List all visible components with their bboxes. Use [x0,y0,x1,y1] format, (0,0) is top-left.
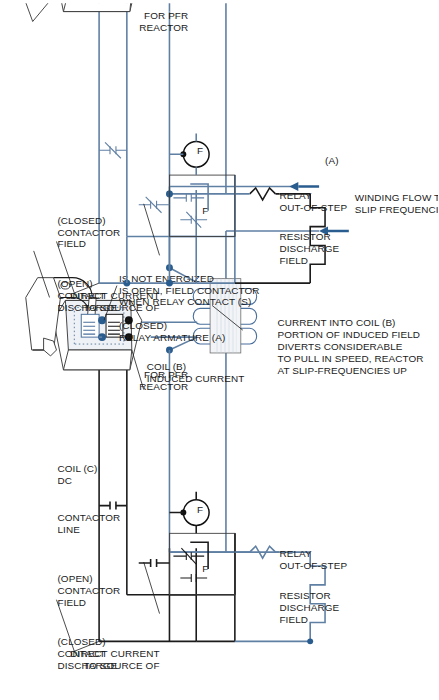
label-line-contactor-A-l1: LINE [57,524,80,535]
upper-contactor-B [99,142,127,158]
label-fdr-A-l3: RESISTOR [279,590,330,601]
panel-A-wiring [99,186,319,641]
field-meter-label-B: F [197,145,203,156]
label-field-contactor-B-l1: FIELD [57,238,86,249]
flow-note-A-l2: WINDING FLOW THRU DISCHARGE CIRCUIT [354,192,437,203]
relay-assembly-B [21,3,141,11]
diagram-page: F [0,0,439,700]
label-oos-B-l2: RELAY [279,190,312,201]
discharge-enclosure-B: F [169,175,234,236]
label-oos-B-l1: OUT-OF-STEP [279,202,347,213]
label-induced-coil-A-l2: COIL (B) [146,361,186,372]
field-contactor-B [138,197,169,213]
note-relay-A-l3: IS NOT ENERGIZED [118,273,213,284]
label-field-contactor-A-l1: FIELD [57,597,86,608]
discharge-contact-B [173,194,204,202]
label-fdr-A-l2: DISCHARGE [279,602,339,613]
discharge-enclosure-A: F [169,533,234,594]
label-discharge-contact-B-l3: (OPEN) [57,278,92,289]
field-meter-B: F [169,133,209,175]
label-armature-A-l2: (CLOSED) [118,320,166,331]
note-slip-A-l5: CURRENT INTO COIL (B) [277,317,395,328]
fuse-label-B: F [202,205,208,216]
label-reactor-B-l2: FOR PFR [144,11,188,22]
label-dc-coil-A-l2: COIL (C) [57,463,97,474]
flow-note-A-l1: SLIP FREQUENCIES INDUCED IN FIELD [354,204,437,215]
label-field-contactor-A-l2: CONTACTOR [57,585,120,596]
rotated-canvas: F [1,3,437,697]
label-field-contactor-B-l3: (CLOSED) [57,215,105,226]
circuit-diagram-svg: F [1,3,437,697]
label-reactor-B-l1: REACTOR [139,22,188,33]
label-discharge-contact-A-l3: (CLOSED) [57,636,105,647]
line-contactor-A [99,502,127,510]
label-armature-A-l1: RELAY ARMATURE (A) [118,332,224,343]
note-slip-A-l4: PORTION OF INDUCED FIELD [277,329,420,340]
label-fdr-B-l3: RESISTOR [279,231,330,242]
label-fdr-B-l1: FIELD [279,255,308,266]
labels-B: TO SOURCE OF DIRECT CURRENT DISCHARGE CO… [57,3,438,313]
label-fdr-A-l1: FIELD [279,614,308,625]
field-contactor-A [138,559,169,567]
note-slip-A-l1: AT SLIP-FREQUENCIES UP [277,365,407,376]
label-oos-A-l1: OUT-OF-STEP [279,560,347,571]
label-induced-coil-A-l1: INDUCED CURRENT [146,373,244,384]
fuse-label-A: F [202,563,208,574]
leaders-B [21,3,159,293]
label-field-contactor-A-l3: (OPEN) [57,573,92,584]
label-fdr-B-l2: DISCHARGE [279,243,339,254]
note-slip-A-l2: TO PULL IN SPEED, REACTOR [277,353,423,364]
label-dc-coil-A-l1: DC [57,475,72,486]
panel-B-group: F [21,3,437,313]
fuse-symbol-A-1 [180,574,207,582]
label-field-contactor-B-l2: CONTACTOR [57,227,120,238]
note-slip-A-l3: DIVERTS CONSIDERABLE [277,341,402,352]
label-line-contactor-A-l2: CONTACTOR [57,512,120,523]
panel-caption-A: (A) [325,155,339,166]
field-meter-A: F [169,492,209,534]
discharge-contact-A [173,548,204,564]
out-of-step-relay-B [225,188,279,200]
label-discharge-contact-A-l2: CONTACT [57,648,105,659]
field-meter-label-A: F [197,504,203,515]
label-discharge-contact-B-l2: CONTACT [57,290,105,301]
label-discharge-contact-B-l1: DISCHARGE [57,302,117,313]
label-oos-A-l2: RELAY [279,548,312,559]
label-discharge-contact-A-l1: DISCHARGE [57,660,117,671]
